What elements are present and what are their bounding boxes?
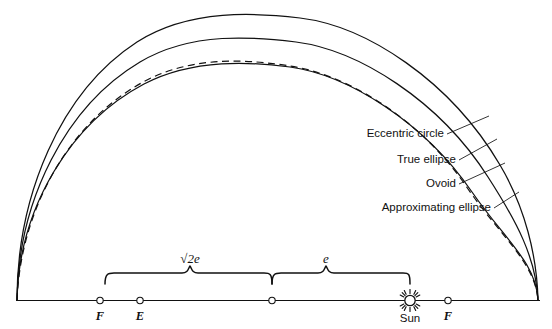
point-label-focus-left: F (85, 310, 115, 323)
point-label-equant: E (125, 310, 155, 323)
brace-sqrt-2e (105, 266, 272, 284)
leader-ovoid (459, 163, 505, 184)
leader-true-ellipse (459, 139, 497, 160)
measure-value-sqrt-2e: 2e (187, 251, 199, 266)
curve-eccentric-circle (17, 14, 538, 300)
marker-focus-right (445, 297, 451, 303)
marker-focus-left (97, 297, 103, 303)
brace-e (272, 266, 410, 284)
curve-ovoid (17, 63, 538, 300)
point-label-sun: Sun (388, 313, 432, 325)
measure-label-sqrt-2e: √2e (160, 252, 220, 265)
measure-label-e: e (296, 252, 356, 265)
label-approximating-ellipse: Approximating ellipse (330, 202, 491, 214)
leader-approximating-ellipse (494, 192, 519, 208)
sun-icon (399, 290, 421, 312)
label-eccentric-circle: Eccentric circle (300, 128, 444, 140)
point-label-focus-right: F (433, 310, 463, 323)
orbit-curves-figure: Eccentric circle True ellipse Ovoid Appr… (0, 0, 552, 329)
marker-equant (137, 297, 143, 303)
marker-center (269, 297, 275, 303)
label-true-ellipse: True ellipse (310, 154, 456, 166)
label-ovoid: Ovoid (310, 178, 456, 190)
measure-value-e: e (323, 251, 329, 266)
